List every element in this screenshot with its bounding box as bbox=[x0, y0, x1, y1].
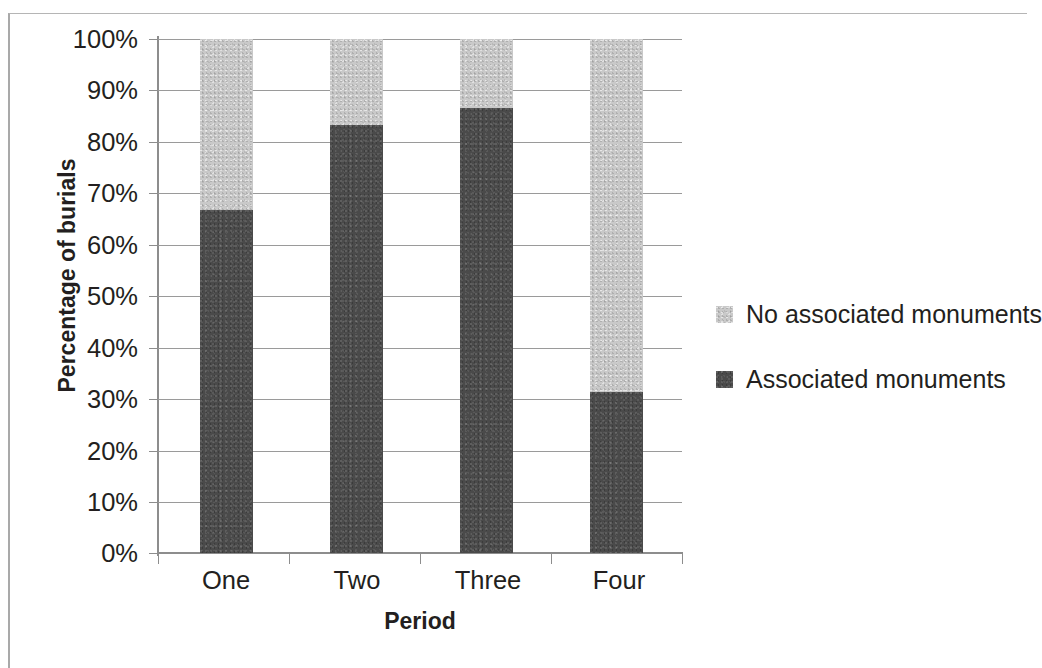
y-tick-90 bbox=[149, 90, 158, 91]
y-tick-40 bbox=[149, 348, 158, 349]
y-tick-80 bbox=[149, 142, 158, 143]
bar-period-three bbox=[460, 39, 513, 553]
segment-associated-monuments bbox=[200, 210, 253, 553]
segment-no-associated-monuments bbox=[460, 39, 513, 108]
segment-associated-monuments bbox=[330, 125, 383, 553]
bar-period-one bbox=[200, 39, 253, 553]
x-tick-1 bbox=[289, 553, 290, 564]
legend-item-associated-monuments: Associated monuments bbox=[716, 365, 1016, 394]
y-tick-label: 100% bbox=[73, 27, 138, 52]
x-tick-3 bbox=[551, 553, 552, 564]
y-tick-label: 70% bbox=[87, 181, 138, 206]
y-tick-50 bbox=[149, 296, 158, 297]
y-tick-label: 80% bbox=[87, 130, 138, 155]
x-tick-start bbox=[158, 553, 159, 564]
x-category-label-four: Four bbox=[539, 566, 699, 595]
y-tick-label: 0% bbox=[101, 541, 138, 566]
y-tick-label: 90% bbox=[87, 78, 138, 103]
chart-legend: No associated monuments Associated monum… bbox=[716, 300, 1016, 430]
y-tick-label: 50% bbox=[87, 284, 138, 309]
y-tick-10 bbox=[149, 502, 158, 503]
bar-period-two bbox=[330, 39, 383, 553]
y-tick-20 bbox=[149, 451, 158, 452]
segment-no-associated-monuments bbox=[590, 39, 643, 392]
legend-swatch-icon bbox=[716, 371, 733, 388]
y-tick-label: 40% bbox=[87, 336, 138, 361]
y-tick-70 bbox=[149, 193, 158, 194]
y-tick-label: 30% bbox=[87, 387, 138, 412]
segment-no-associated-monuments bbox=[330, 39, 383, 125]
x-tick-2 bbox=[420, 553, 421, 564]
bar-period-four bbox=[590, 39, 643, 553]
y-tick-0 bbox=[149, 553, 158, 554]
segment-no-associated-monuments bbox=[200, 39, 253, 210]
legend-item-label: Associated monuments bbox=[746, 365, 1006, 394]
y-tick-label: 10% bbox=[87, 490, 138, 515]
x-axis-title: Period bbox=[158, 608, 682, 635]
y-tick-label: 60% bbox=[87, 233, 138, 258]
y-tick-30 bbox=[149, 399, 158, 400]
y-tick-label: 20% bbox=[87, 439, 138, 464]
y-tick-100 bbox=[149, 39, 158, 40]
legend-item-label: No associated monuments bbox=[746, 300, 1042, 329]
y-tick-60 bbox=[149, 245, 158, 246]
legend-item-no-associated-monuments: No associated monuments bbox=[716, 300, 1016, 329]
y-axis-title: Percentage of burials bbox=[54, 146, 81, 406]
legend-swatch-icon bbox=[716, 306, 733, 323]
segment-associated-monuments bbox=[460, 108, 513, 553]
segment-associated-monuments bbox=[590, 392, 643, 553]
x-tick-end bbox=[682, 553, 683, 564]
plot-area bbox=[158, 39, 682, 553]
